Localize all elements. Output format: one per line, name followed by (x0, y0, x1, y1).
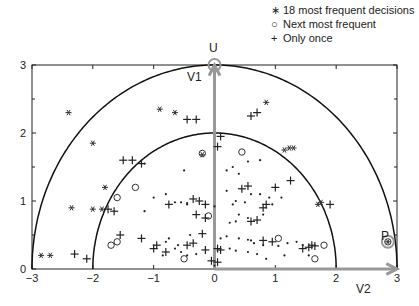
legend-label-1: Next most frequent (283, 18, 376, 30)
dot-point (238, 173, 240, 175)
plus-point (183, 241, 191, 249)
circle-point (181, 256, 187, 262)
dot-point (143, 210, 145, 212)
dot-point (253, 242, 255, 244)
asterisk-point (38, 253, 44, 258)
dot-point (213, 265, 215, 267)
legend-label-0: 18 most frequent decisions (283, 4, 415, 16)
dot-point (232, 203, 234, 205)
dot-point (268, 197, 270, 199)
dot-point (183, 169, 185, 171)
legend-marker-asterisk: ∗ (271, 4, 280, 16)
dot-point (177, 244, 179, 246)
x-tick-label: −2 (87, 272, 100, 284)
annotation-u: U (209, 41, 218, 55)
plus-point (198, 230, 206, 238)
asterisk-point (90, 141, 96, 146)
plus-point (110, 207, 118, 215)
dot-point (286, 242, 288, 244)
circle-point (114, 239, 120, 245)
x-tick-label: 3 (394, 272, 400, 284)
x-tick-label: 2 (333, 272, 339, 284)
dot-point (247, 239, 249, 241)
dot-point (143, 163, 145, 165)
asterisk-point (157, 107, 163, 112)
chart: −3−2−101230123 ∗ 18 most frequent decisi… (0, 0, 419, 306)
circle-point (312, 256, 318, 262)
x-tick-label: −1 (147, 272, 160, 284)
dot-point (250, 193, 252, 195)
plus-point (165, 200, 173, 208)
plus-point (116, 231, 124, 239)
dot-point (153, 197, 155, 199)
dot-point (296, 241, 298, 243)
plus-point (201, 214, 209, 222)
dot-point (256, 253, 258, 255)
dot-point (174, 248, 176, 250)
dot-point (259, 193, 261, 195)
legend-marker-plus: + (271, 32, 277, 44)
plus-point (128, 156, 136, 164)
circle-point (275, 235, 281, 241)
circle-point (132, 184, 138, 190)
dot-point (235, 250, 237, 252)
dot-point (226, 190, 228, 192)
plus-point (287, 177, 295, 185)
circle-point (321, 242, 327, 248)
dot-point (259, 159, 261, 161)
y-tick-label: 3 (20, 59, 26, 71)
annotation-v1: V1 (187, 70, 202, 84)
plus-point (83, 255, 91, 263)
dot-point (247, 160, 249, 162)
dot-point (180, 201, 182, 203)
dot-point (186, 254, 188, 256)
plus-point (138, 234, 146, 242)
x-tick-label: 0 (211, 272, 217, 284)
dot-point (195, 253, 197, 255)
dot-point (265, 258, 267, 260)
dot-point (262, 214, 264, 216)
plus-point (201, 246, 209, 254)
vectors (209, 65, 397, 274)
legend: ∗ 18 most frequent decisions ○ Next most… (271, 4, 415, 44)
plus-point (183, 115, 191, 123)
asterisk-point (172, 110, 178, 115)
dot-point (219, 237, 221, 239)
dot-point (186, 202, 188, 204)
plus-point (326, 200, 334, 208)
dot-point (235, 200, 237, 202)
asterisk-point (90, 207, 96, 212)
dot-point (162, 254, 164, 256)
dot-point (174, 201, 176, 203)
dot-point (168, 237, 170, 239)
y-tick-label: 1 (20, 195, 26, 207)
dot-point (235, 220, 237, 222)
dot-point (165, 241, 167, 243)
dot-point (180, 251, 182, 253)
plus-point (271, 183, 279, 191)
dot-point (229, 222, 231, 224)
dot-point (280, 197, 282, 199)
asterisk-point (102, 185, 108, 190)
asterisk-point (291, 145, 297, 150)
plus-point (104, 205, 112, 213)
plus-point (119, 156, 127, 164)
asterisk-point (263, 100, 269, 105)
annotations: U V1 V2 P (187, 41, 389, 296)
dot-point (271, 203, 273, 205)
dot-point (277, 245, 279, 247)
dot-point (226, 235, 228, 237)
dot-point (283, 254, 285, 256)
legend-marker-circle: ○ (271, 18, 278, 30)
legend-label-2: Only once (283, 32, 333, 44)
asterisk-point (47, 253, 53, 258)
dot-point (302, 244, 304, 246)
dot-point (189, 234, 191, 236)
annotation-p: P (381, 229, 389, 243)
plus-point (192, 211, 200, 219)
plus-point (259, 236, 267, 244)
dot-point (247, 251, 249, 253)
x-tick-label: 1 (272, 272, 278, 284)
dot-point (238, 237, 240, 239)
plus-point (253, 216, 261, 224)
